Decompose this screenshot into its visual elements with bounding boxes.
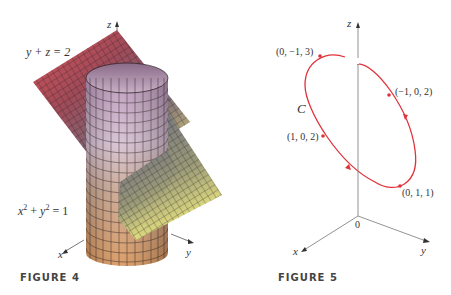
figure-5-plot <box>225 0 451 295</box>
direction-arrow-icon <box>403 114 408 120</box>
plane-equation-label: y + z = 2 <box>26 46 70 58</box>
y-axis <box>358 216 426 241</box>
z-axis-label: z <box>347 18 351 29</box>
cylinder-equation-label: x2 + y2 = 1 <box>18 204 68 217</box>
curve-c <box>305 55 416 187</box>
y-axis-arrow-icon <box>423 238 430 243</box>
origin-label: 0 <box>355 220 360 230</box>
x-axis-label: x <box>58 249 63 260</box>
x-axis <box>304 216 358 250</box>
figure-5-caption: FIGURE 5 <box>278 272 338 283</box>
point-marker <box>321 134 325 138</box>
x-axis <box>64 240 84 252</box>
z-axis-arrow-icon <box>356 22 360 28</box>
point-label-1-0-2: (1, 0, 2) <box>287 132 319 142</box>
point-label-0-m1-3: (0, −1, 3) <box>276 47 313 57</box>
figure-4: z x y y + z = 2 x2 + y2 = 1 FIGURE 4 <box>0 0 230 295</box>
point-marker <box>387 93 391 97</box>
point-label-0-1-1: (0, 1, 1) <box>402 188 434 198</box>
z-axis-label: z <box>107 19 111 30</box>
eq-plus: + <box>27 204 40 218</box>
x-axis-arrow-icon <box>301 247 307 252</box>
point-marker <box>318 54 322 58</box>
x-axis-label: x <box>293 246 298 257</box>
y-axis-label: y <box>421 245 426 256</box>
eq-rhs: = 1 <box>49 204 68 218</box>
curve-label: C <box>297 102 306 115</box>
figure-4-caption: FIGURE 4 <box>20 272 80 283</box>
y-axis-arrow-icon <box>188 239 194 244</box>
point-label-m1-0-2: (−1, 0, 2) <box>395 87 432 97</box>
figure-5: z x y 0 (0, −1, 3) (−1, 0, 2) (1, 0, 2) … <box>225 0 451 295</box>
y-axis-label: y <box>186 247 191 258</box>
z-axis-arrow-icon <box>115 21 119 27</box>
